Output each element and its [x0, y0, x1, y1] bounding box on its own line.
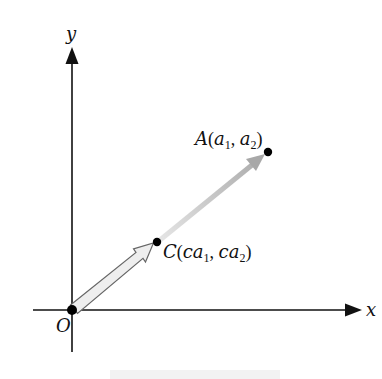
vector-c-to-a: [160, 154, 265, 240]
caption-remnant: [110, 370, 280, 379]
vector-o-to-c: [71, 243, 154, 314]
point-c-label: C(ca1, ca2): [163, 241, 251, 265]
y-axis-arrow-icon: [66, 47, 79, 64]
point-c: [153, 238, 161, 246]
y-axis-label: y: [65, 23, 77, 44]
origin-label: O: [56, 315, 71, 336]
vector-diagram: y x O A(a1, a2) C(ca1, ca2): [0, 0, 382, 379]
point-a: [264, 148, 272, 156]
point-origin: [67, 305, 77, 315]
x-axis-label: x: [366, 299, 376, 320]
x-axis-arrow-icon: [345, 304, 362, 317]
point-a-label: A(a1, a2): [193, 128, 262, 152]
